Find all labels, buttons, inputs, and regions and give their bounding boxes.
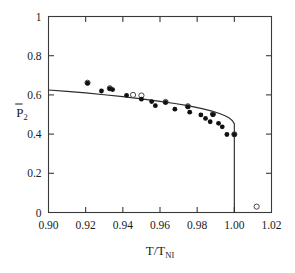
filled-circle-point-18 [225,132,230,137]
filled-circle-point-1 [99,89,104,94]
figure-container: 0.900.920.940.960.981.001.02 00.20.40.60… [0,0,295,273]
filled-circle-point-11 [187,110,192,115]
filled-circle-point-7 [153,103,158,108]
filled-circle-point-5 [139,97,144,102]
open-circle-point-2 [130,92,135,97]
filled-circle-point-15 [211,112,216,117]
y-tick-label-3: 0.6 [27,89,42,101]
filled-circle-point-3 [110,87,115,92]
figure-background [0,0,295,273]
filled-circle-point-0 [85,81,90,86]
x-tick-label-1: 0.92 [76,219,96,231]
filled-circle-point-17 [220,124,225,129]
x-axis-title-main: T/T [146,243,166,258]
filled-circle-point-13 [203,116,208,121]
filled-circle-point-14 [208,119,213,124]
order-parameter-scatter-plot: 0.900.920.940.960.981.001.02 00.20.40.60… [0,0,295,273]
y-tick-label-5: 1 [36,11,42,23]
x-axis-title-subscript: NI [165,250,174,260]
filled-circle-point-6 [149,99,154,104]
x-tick-label-5: 1.00 [224,219,244,231]
filled-circle-point-8 [163,100,168,105]
x-tick-label-0: 0.90 [38,219,58,231]
filled-circle-point-12 [198,112,203,117]
x-tick-label-2: 0.94 [113,219,133,231]
filled-circle-point-16 [216,121,221,126]
y-tick-label-4: 0.8 [27,50,42,62]
y-axis-title-main: P [16,105,23,120]
y-axis-title-subscript: 2 [23,112,27,122]
filled-circle-point-19 [232,132,237,137]
y-tick-label-1: 0.2 [27,167,42,179]
y-tick-label-2: 0.4 [27,128,42,140]
y-tick-label-0: 0 [36,207,42,219]
x-tick-label-6: 1.02 [261,219,281,231]
x-tick-label-3: 0.96 [150,219,170,231]
x-tick-label-4: 0.98 [187,219,207,231]
open-circle-point-8 [254,204,259,209]
filled-circle-point-10 [185,104,190,109]
filled-circle-point-4 [124,93,129,98]
filled-circle-point-9 [172,107,177,112]
